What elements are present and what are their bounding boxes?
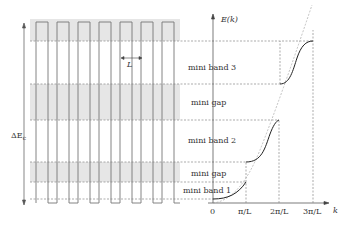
label-mini-band-1: mini band 1: [183, 186, 231, 195]
label-mini-band-2: mini band 2: [188, 136, 236, 145]
label-mini-gap-lower: mini gap: [191, 169, 226, 178]
label-mini-band-3: mini band 3: [188, 63, 236, 72]
y-axis-label: E(k): [220, 15, 238, 24]
zone-boundaries: [246, 30, 313, 203]
x-tick-3pi: 3π/L: [303, 207, 322, 216]
shaded-bands: [30, 19, 180, 182]
x-axis-label: k: [333, 206, 338, 215]
free-electron-parabola: [213, 5, 312, 203]
label-mini-gap-upper: mini gap: [191, 98, 226, 107]
superlattice-diagram: ΔEc L E(k) k 0 π/L 2π/L 3π/L mini band 3…: [0, 0, 356, 228]
delta-ec-arrow: [23, 23, 26, 205]
x-tick-0: 0: [210, 207, 215, 216]
x-tick-2pi: 2π/L: [270, 207, 289, 216]
x-tick-pi: π/L: [238, 207, 252, 216]
period-label: L: [126, 60, 132, 69]
